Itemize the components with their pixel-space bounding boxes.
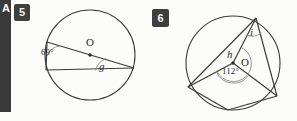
worksheet-page: A 5 bbox=[0, 0, 297, 121]
figure-5-diagram bbox=[45, 10, 135, 100]
radius-O-R bbox=[233, 63, 277, 96]
chord-B-R bbox=[228, 96, 277, 110]
label-angle-h: h bbox=[227, 48, 233, 60]
figure-6-diagram bbox=[186, 16, 280, 110]
label-angle-69: 69° bbox=[41, 47, 54, 57]
label-angle-i: i bbox=[250, 26, 253, 38]
label-center-O-5: O bbox=[86, 36, 94, 48]
label-angle-112: 112° bbox=[222, 66, 239, 76]
problem-number-badge-6: 6 bbox=[152, 9, 169, 27]
geometry-figures bbox=[0, 0, 297, 121]
chord-L-B bbox=[188, 87, 228, 110]
center-point-5 bbox=[88, 53, 91, 56]
center-point-6 bbox=[231, 61, 234, 64]
chord-B-C bbox=[46, 68, 134, 70]
label-angle-g: g bbox=[99, 60, 105, 72]
label-center-O-6: O bbox=[241, 56, 249, 68]
